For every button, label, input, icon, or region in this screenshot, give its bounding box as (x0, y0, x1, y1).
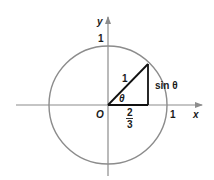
x-tick-label: 1 (170, 109, 176, 120)
x-axis-label: x (192, 109, 199, 120)
y-axis-label: y (96, 16, 103, 27)
hypotenuse (108, 64, 148, 105)
adjacent-denominator: 3 (127, 119, 133, 130)
y-tick-label: 1 (98, 33, 104, 44)
origin-label: O (96, 109, 104, 120)
hypotenuse-label: 1 (122, 73, 128, 84)
unit-circle-diagram: y 1 1 sin θ θ O 2 3 1 x (0, 0, 214, 180)
sin-theta-label: sin θ (155, 80, 178, 91)
angle-theta-label: θ (119, 93, 125, 104)
adjacent-numerator: 2 (127, 107, 133, 118)
